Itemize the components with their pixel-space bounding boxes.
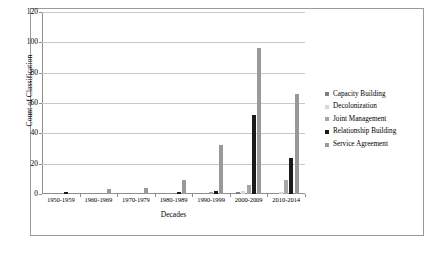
legend-label: Capacity Building bbox=[333, 91, 386, 98]
y-axis-tick-label: 40 bbox=[31, 130, 39, 138]
bar bbox=[247, 185, 251, 194]
y-axis-tick-mark bbox=[39, 194, 42, 195]
bar-group bbox=[230, 12, 268, 194]
bar-group bbox=[80, 12, 118, 194]
y-axis-tick-label: 80 bbox=[31, 69, 39, 77]
legend-label: Service Agreement bbox=[333, 141, 388, 148]
y-axis-tick-label: 100 bbox=[27, 39, 38, 47]
bar bbox=[107, 189, 111, 194]
bar bbox=[289, 158, 293, 194]
legend-item: Service Agreement bbox=[325, 138, 427, 151]
x-axis-tick-label: 2000-2009 bbox=[235, 196, 263, 203]
bar bbox=[214, 191, 218, 194]
bar bbox=[64, 192, 68, 194]
y-axis-tick-label: 0 bbox=[34, 190, 38, 198]
bar-group bbox=[117, 12, 155, 194]
legend-label: Joint Management bbox=[333, 116, 386, 123]
legend-label: Decolonization bbox=[333, 103, 377, 110]
bar bbox=[177, 192, 181, 194]
chart-figure: Count of Classification 020406080100120 … bbox=[0, 0, 430, 267]
bars-layer bbox=[42, 12, 305, 194]
legend-item: Relationship Building bbox=[325, 126, 427, 139]
x-axis-tick-label: 1960-1969 bbox=[85, 196, 113, 203]
bar-group bbox=[42, 12, 80, 194]
legend-swatch-icon bbox=[325, 143, 329, 147]
x-axis-tick-label: 1990-1999 bbox=[197, 196, 225, 203]
x-axis-tick-label: 1950-1959 bbox=[47, 196, 75, 203]
legend-swatch-icon bbox=[325, 105, 329, 109]
bar-group bbox=[267, 12, 305, 194]
x-axis-title: Decades bbox=[42, 210, 305, 219]
bar bbox=[241, 191, 245, 194]
bar-group bbox=[192, 12, 230, 194]
y-axis-tick-label: 60 bbox=[31, 99, 39, 107]
chart-legend: Capacity BuildingDecolonizationJoint Man… bbox=[325, 88, 427, 151]
x-axis-tick-label: 1980-1989 bbox=[160, 196, 188, 203]
y-axis-tick-label: 120 bbox=[27, 8, 38, 16]
bar bbox=[144, 188, 148, 194]
y-axis-tick-label: 20 bbox=[31, 160, 39, 168]
bar bbox=[279, 192, 283, 194]
bar bbox=[219, 145, 223, 194]
bar bbox=[295, 94, 299, 194]
bar bbox=[209, 192, 213, 194]
x-axis-tick-label: 2010-2014 bbox=[272, 196, 300, 203]
bar bbox=[252, 115, 256, 194]
x-axis-tick-mark bbox=[305, 194, 306, 197]
bar bbox=[236, 192, 240, 194]
bar bbox=[182, 180, 186, 194]
legend-item: Capacity Building bbox=[325, 88, 427, 101]
bar-group bbox=[155, 12, 193, 194]
legend-item: Decolonization bbox=[325, 101, 427, 114]
legend-swatch-icon bbox=[325, 117, 329, 121]
x-axis-ticks: 1950-19591960-19691970-19791980-19891990… bbox=[42, 196, 305, 210]
bar bbox=[257, 48, 261, 194]
legend-item: Joint Management bbox=[325, 113, 427, 126]
legend-swatch-icon bbox=[325, 92, 329, 96]
x-axis-tick-label: 1970-1979 bbox=[122, 196, 150, 203]
legend-swatch-icon bbox=[325, 130, 329, 134]
bar bbox=[284, 180, 288, 194]
legend-label: Relationship Building bbox=[333, 128, 396, 135]
plot-area: 020406080100120 bbox=[42, 12, 305, 194]
